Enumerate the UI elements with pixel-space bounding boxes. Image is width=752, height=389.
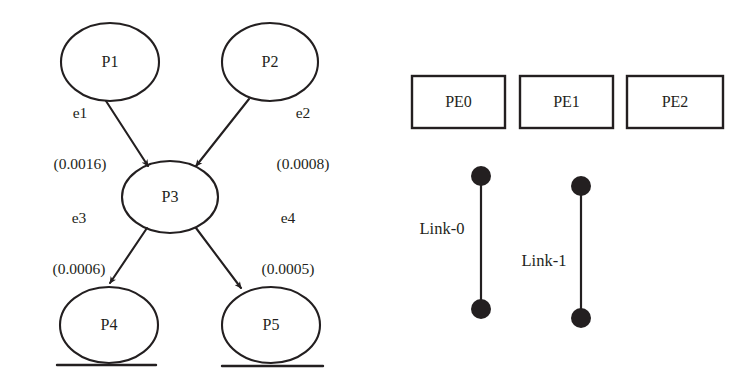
edge-e2-arrow [196, 99, 249, 166]
link-Link-0-endpoint-bottom [471, 299, 491, 319]
link-Link-0-endpoint-top [471, 166, 491, 186]
edge-e1-arrow [106, 101, 148, 166]
node-P4-shape [60, 287, 158, 363]
edge-e3-arrow [110, 228, 147, 283]
pe-box-PE1-shape [520, 76, 613, 128]
link-Link-1-endpoint-bottom [571, 308, 591, 328]
node-P2-shape [222, 23, 318, 101]
edge-e4-arrow [196, 228, 241, 288]
pe-box-PE0-shape [412, 76, 505, 128]
node-P1-shape [61, 23, 159, 101]
pe-box-PE2-shape [627, 76, 723, 128]
node-P5-shape [222, 287, 320, 363]
node-P3-shape [122, 161, 218, 233]
diagram-vector-layer [0, 0, 752, 389]
link-Link-1-endpoint-top [571, 176, 591, 196]
figure-canvas: P1 P2 P3 P4 P5 e1 (0.0016) e2 (0.0008) e… [0, 0, 752, 389]
